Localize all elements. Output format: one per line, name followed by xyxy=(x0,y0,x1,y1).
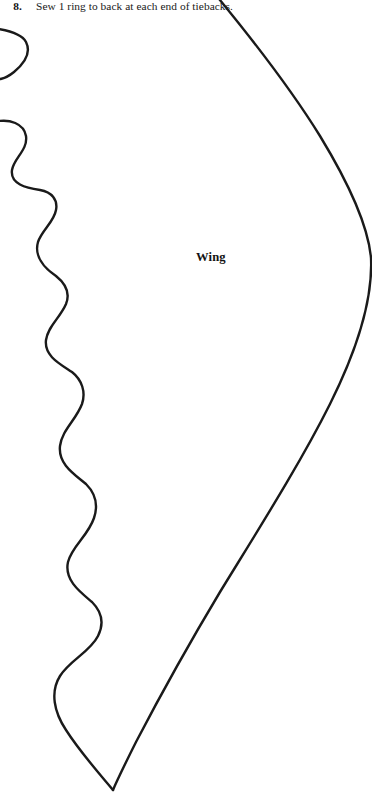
pattern-page: 8. Sew 1 ring to back at each end of tie… xyxy=(0,0,372,797)
wing-pattern-outline xyxy=(0,0,372,797)
wing-right-edge-path xyxy=(113,0,371,790)
wing-left-scalloped-edge-path xyxy=(0,28,113,790)
wing-label: Wing xyxy=(196,250,226,265)
